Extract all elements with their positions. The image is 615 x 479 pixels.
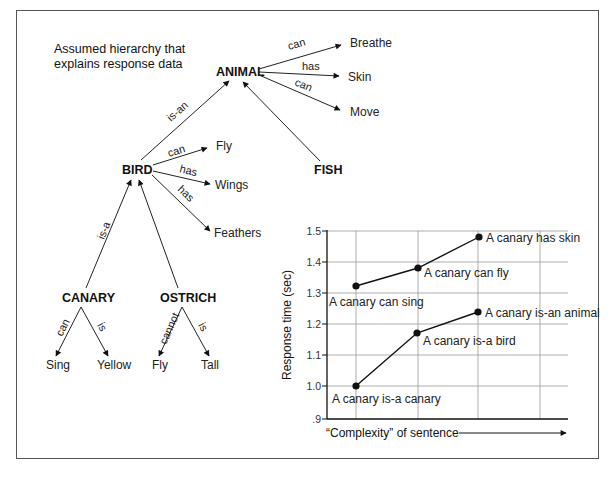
- leaf-yellow: Yellow: [97, 358, 132, 372]
- label-is-a-bird: A canary is-a bird: [423, 334, 516, 348]
- y-tick-1.3: 1.3: [306, 287, 321, 299]
- rel-animal-has-skin: has: [302, 60, 320, 72]
- leaf-feathers: Feathers: [214, 226, 261, 240]
- chart-grid: [327, 231, 568, 419]
- leaf-fly: Fly: [216, 139, 232, 153]
- canary-edges: can is Sing Yellow: [46, 307, 132, 372]
- y-tick-0.9: .9: [312, 413, 321, 425]
- leaf-tall: Tall: [201, 358, 219, 372]
- point-is-an-animal: [474, 308, 481, 315]
- leaf-sing: Sing: [46, 358, 70, 372]
- leaf-skin: Skin: [348, 70, 371, 84]
- node-bird: BIRD: [122, 163, 153, 177]
- figure: Assumed hierarchy that explains response…: [0, 0, 615, 479]
- edge-fish-to-animal: [243, 82, 320, 161]
- label-can-sing: A canary can sing: [329, 295, 424, 309]
- animal-edges: can has can Breathe Skin Move: [259, 35, 392, 119]
- edge-ostrich-to-bird: [139, 180, 178, 288]
- label-is-an-animal: A canary is-an animal: [485, 306, 600, 320]
- x-axis-label: “Complexity” of sentence: [326, 426, 459, 440]
- diagram-and-chart: Assumed hierarchy that explains response…: [0, 0, 615, 479]
- rel-canary-can-sing: can: [53, 317, 72, 338]
- point-is-a-bird: [413, 329, 420, 336]
- y-axis-label: Response time (sec): [280, 270, 294, 380]
- point-can-fly: [414, 264, 421, 271]
- y-tick-1.0: 1.0: [306, 380, 321, 392]
- bird-edges: can has has Fly Wings Feathers: [152, 139, 261, 240]
- node-ostrich: OSTRICH: [160, 291, 216, 305]
- ostrich-edges: cannot is Fly Tall: [152, 307, 219, 372]
- diagram-title-line2: explains response data: [54, 57, 183, 71]
- response-time-chart: 1.5 1.4 1.3 1.2 1.1 1.0 .9 Response time…: [280, 225, 600, 440]
- rel-ostrich-is-tall: is: [196, 320, 211, 333]
- leaf-breathe: Breathe: [350, 36, 392, 50]
- series-category-line: [356, 312, 478, 386]
- node-animal: ANIMAL: [216, 65, 265, 79]
- y-tick-1.4: 1.4: [306, 256, 321, 268]
- rel-ostrich-cannot-fly: cannot: [157, 311, 181, 346]
- leaf-wings: Wings: [215, 178, 248, 192]
- label-can-fly: A canary can fly: [424, 266, 509, 280]
- y-tick-1.5: 1.5: [306, 225, 321, 237]
- leaf-move: Move: [350, 105, 380, 119]
- node-fish: FISH: [314, 163, 342, 177]
- rel-bird-has-wings: has: [179, 162, 200, 178]
- rel-animal-can-breathe: can: [286, 35, 306, 51]
- label-is-a-canary: A canary is-a canary: [332, 392, 441, 406]
- point-can-sing: [352, 282, 359, 289]
- point-is-a-canary: [352, 382, 359, 389]
- rel-bird-can-fly: can: [166, 142, 186, 159]
- y-tick-1.1: 1.1: [306, 349, 321, 361]
- y-tick-labels: 1.5 1.4 1.3 1.2 1.1 1.0 .9: [306, 225, 321, 425]
- diagram-title-line1: Assumed hierarchy that: [54, 42, 186, 56]
- node-canary: CANARY: [62, 291, 116, 305]
- leaf-ostrich-fly: Fly: [152, 358, 168, 372]
- point-has-skin: [475, 233, 482, 240]
- rel-canary-is-yellow: is: [95, 320, 110, 333]
- y-tick-1.2: 1.2: [306, 318, 321, 330]
- rel-canary-is-a-bird: is-a: [95, 219, 113, 241]
- label-has-skin: A canary has skin: [486, 231, 580, 245]
